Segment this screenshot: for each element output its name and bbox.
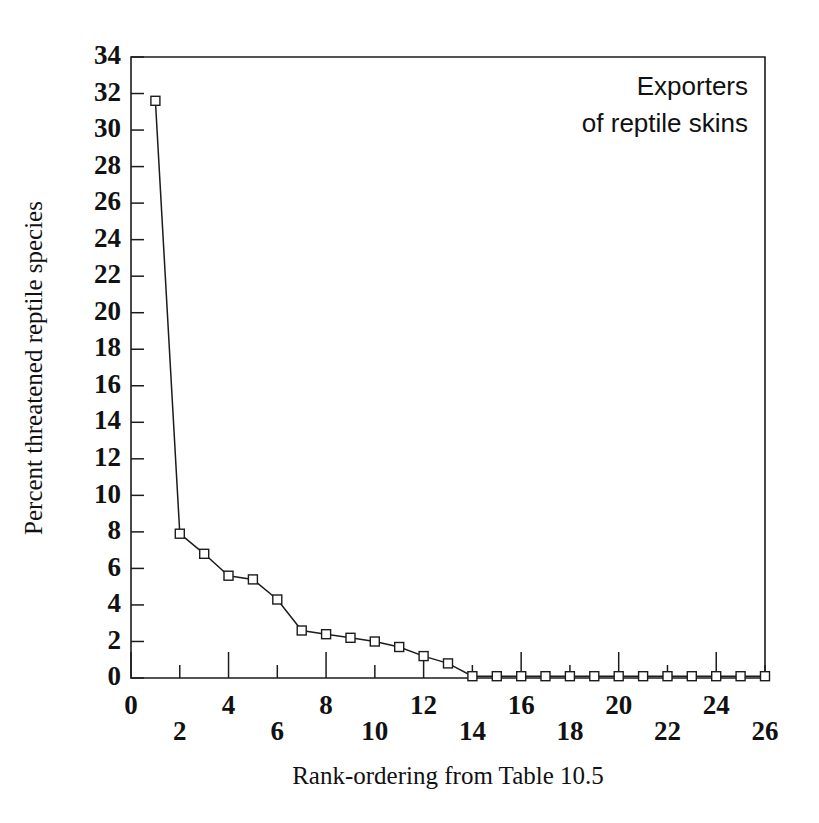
x-tick-label: 18	[556, 716, 583, 746]
data-point-marker	[614, 672, 623, 681]
chart-figure: 0246810121416182022242628303234 02468101…	[0, 0, 819, 823]
x-tick-label: 2	[173, 716, 187, 746]
data-point-marker	[273, 595, 282, 604]
y-tick-label: 26	[94, 186, 121, 216]
x-tick-label: 14	[459, 716, 486, 746]
y-tick-label: 6	[108, 552, 122, 582]
data-point-marker	[297, 626, 306, 635]
y-tick-label: 4	[108, 588, 122, 618]
y-tick-label: 18	[94, 332, 121, 362]
y-tick-label: 8	[108, 515, 122, 545]
y-tick-label: 34	[94, 40, 121, 70]
data-point-marker	[736, 672, 745, 681]
data-point-marker	[517, 672, 526, 681]
data-point-marker	[712, 672, 721, 681]
x-tick-label: 8	[319, 690, 333, 720]
x-tick-label: 22	[654, 716, 681, 746]
x-tick-label: 12	[410, 690, 437, 720]
data-point-marker	[565, 672, 574, 681]
data-point-marker	[248, 575, 257, 584]
x-tick-label: 0	[124, 690, 138, 720]
x-tick-label: 10	[361, 716, 388, 746]
reptile-exporters-line-chart: 0246810121416182022242628303234 02468101…	[0, 0, 819, 823]
y-tick-label: 32	[94, 77, 121, 107]
x-tick-label: 20	[605, 690, 632, 720]
y-tick-label: 22	[94, 259, 121, 289]
data-point-marker	[175, 529, 184, 538]
annotation-line-2: of reptile skins	[582, 108, 748, 138]
data-point-marker	[395, 643, 404, 652]
data-point-marker	[492, 672, 501, 681]
x-tick-label: 26	[752, 716, 779, 746]
y-tick-label: 2	[108, 625, 122, 655]
data-point-marker	[419, 652, 428, 661]
data-point-marker	[639, 672, 648, 681]
y-tick-label: 24	[94, 223, 121, 253]
x-tick-label: 24	[703, 690, 730, 720]
y-tick-label: 16	[94, 369, 121, 399]
data-point-marker	[322, 630, 331, 639]
y-tick-label: 20	[94, 296, 121, 326]
data-point-marker	[346, 633, 355, 642]
y-tick-label: 10	[94, 479, 121, 509]
y-axis-title: Percent threatened reptile species	[20, 201, 47, 535]
x-tick-label: 6	[271, 716, 285, 746]
y-tick-label: 0	[108, 661, 122, 691]
x-tick-label: 4	[222, 690, 236, 720]
x-axis-title: Rank-ordering from Table 10.5	[292, 762, 604, 789]
y-tick-label: 14	[94, 405, 121, 435]
data-point-marker	[370, 637, 379, 646]
data-point-marker	[224, 571, 233, 580]
data-point-marker	[541, 672, 550, 681]
data-point-marker	[590, 672, 599, 681]
data-point-marker	[468, 672, 477, 681]
data-point-marker	[761, 672, 770, 681]
data-point-marker	[444, 659, 453, 668]
x-tick-label: 16	[508, 690, 535, 720]
annotation-line-1: Exporters	[637, 71, 748, 101]
y-tick-label: 28	[94, 150, 121, 180]
data-point-marker	[200, 549, 209, 558]
data-point-marker	[687, 672, 696, 681]
y-tick-label: 30	[94, 113, 121, 143]
data-point-marker	[151, 96, 160, 105]
data-point-marker	[663, 672, 672, 681]
y-tick-label: 12	[94, 442, 121, 472]
